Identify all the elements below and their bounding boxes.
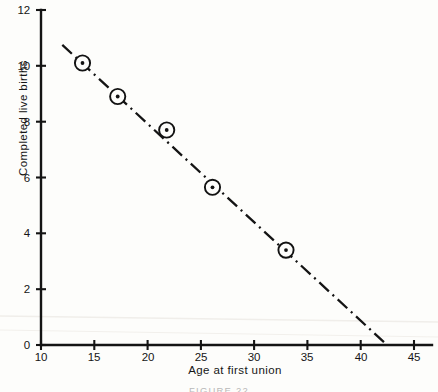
x-axis-title: Age at first union — [140, 364, 330, 376]
data-point — [159, 122, 174, 137]
y-tick-label-4: 4 — [8, 227, 30, 239]
x-tick-label-25: 25 — [195, 351, 207, 363]
fitted-regression-line — [62, 45, 387, 345]
chart-canvas — [0, 0, 438, 392]
data-point — [75, 55, 90, 70]
y-tick-label-12: 12 — [8, 4, 30, 16]
x-tick-label-45: 45 — [408, 351, 420, 363]
figure-page: 0 2 4 6 8 10 12 10 15 20 25 30 35 40 45 … — [0, 0, 438, 392]
figure-caption: FIGURE 22 — [0, 385, 438, 392]
x-tick-label-30: 30 — [248, 351, 260, 363]
data-point — [278, 243, 293, 258]
data-point — [205, 180, 220, 195]
scan-artifact-lines — [0, 316, 438, 337]
x-tick-label-40: 40 — [355, 351, 367, 363]
y-tick-label-0: 0 — [8, 339, 30, 351]
y-axis-title: Completed live births — [17, 33, 29, 203]
x-tick-label-10: 10 — [35, 351, 47, 363]
x-tick-label-20: 20 — [142, 351, 154, 363]
x-tick-label-15: 15 — [88, 351, 100, 363]
data-point — [110, 89, 125, 104]
x-tick-label-35: 35 — [301, 351, 313, 363]
chart-plot-area: 0 2 4 6 8 10 12 10 15 20 25 30 35 40 45 … — [0, 0, 438, 392]
y-tick-label-2: 2 — [8, 283, 30, 295]
